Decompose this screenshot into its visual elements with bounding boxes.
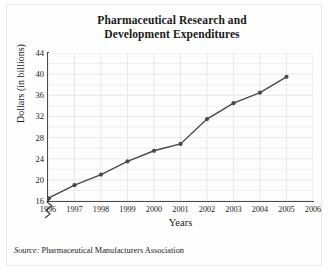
x-tick-label: 2000 <box>146 205 162 214</box>
data-series-line <box>48 53 313 201</box>
y-tick-label: 20 <box>24 175 44 185</box>
x-axis-line <box>47 201 314 202</box>
x-tick-label: 2005 <box>278 205 294 214</box>
plot-area <box>48 53 313 201</box>
y-tick-label: 44 <box>24 48 44 58</box>
chart-title: Pharmaceutical Research and Development … <box>40 14 304 41</box>
y-tick-label: 32 <box>24 111 44 121</box>
y-axis-tick-labels: 1620242832364044 <box>22 53 44 201</box>
chart-page: Pharmaceutical Research and Development … <box>0 0 328 273</box>
x-tick-label: 2001 <box>172 205 188 214</box>
chart-title-line-2: Development Expenditures <box>40 28 304 42</box>
source-label: Source: <box>14 246 40 255</box>
source-note: Source: Pharmaceutical Manufacturers Ass… <box>14 246 184 255</box>
x-tick-label: 1999 <box>119 205 135 214</box>
x-axis-tick-labels: 1996199719981999200020012002200320042005… <box>48 205 313 217</box>
x-tick-label: 2004 <box>252 205 268 214</box>
x-tick-label: 1997 <box>66 205 82 214</box>
x-axis-title: Years <box>48 217 313 228</box>
y-tick-label: 24 <box>24 154 44 164</box>
x-tick-label: 2003 <box>225 205 241 214</box>
x-tick-label: 1996 <box>40 205 56 214</box>
x-tick-label: 1998 <box>93 205 109 214</box>
x-tick-label: 2002 <box>199 205 215 214</box>
y-tick-label: 36 <box>24 90 44 100</box>
y-tick-label: 28 <box>24 133 44 143</box>
source-text: Pharmaceutical Manufacturers Association <box>42 246 184 255</box>
x-tick-label: 2006 <box>305 205 321 214</box>
y-tick-label: 40 <box>24 69 44 79</box>
chart-title-line-1: Pharmaceutical Research and <box>40 14 304 28</box>
